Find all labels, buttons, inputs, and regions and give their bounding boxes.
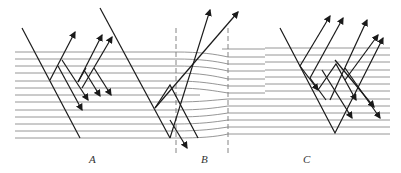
panel-label-a: A bbox=[89, 153, 96, 165]
panel-b-rays bbox=[100, 8, 238, 148]
panel-label-b: B bbox=[201, 153, 208, 165]
panel-a-layers bbox=[15, 52, 140, 138]
panel-b-layers bbox=[140, 28, 265, 155]
panel-c-rays bbox=[280, 16, 383, 133]
ray-diagram bbox=[0, 0, 401, 173]
panel-label-c: C bbox=[303, 153, 310, 165]
panel-a-rays bbox=[22, 28, 112, 138]
